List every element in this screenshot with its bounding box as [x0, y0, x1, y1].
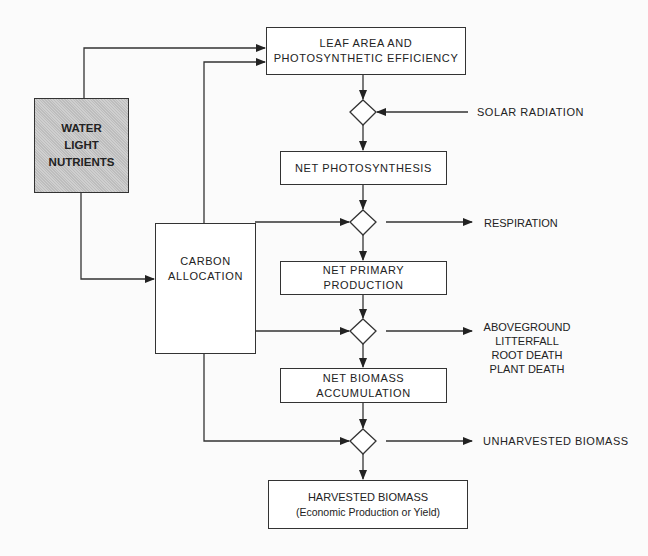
net-biomass-accumulation-box: NET BIOMASS ACCUMULATION	[280, 368, 447, 403]
net-primary-production-box: NET PRIMARY PRODUCTION	[280, 261, 447, 295]
decision-diamond-1	[350, 100, 376, 125]
net-photosynthesis-label: NET PHOTOSYNTHESIS	[295, 161, 432, 176]
harvested-biomass-box: HARVESTED BIOMASS (Economic Production o…	[268, 480, 468, 529]
losses-label: ABOVEGROUND LITTERFALL ROOT DEATH PLANT …	[482, 320, 572, 376]
harvested-line-2: (Economic Production or Yield)	[296, 505, 440, 520]
decision-diamond-2	[350, 210, 376, 235]
respiration-label: RESPIRATION	[484, 216, 558, 230]
loss-root-death: ROOT DEATH	[482, 348, 572, 362]
leaf-area-box: LEAF AREA AND PHOTOSYNTHETIC EFFICIENCY	[266, 27, 466, 75]
carbon-allocation-box: CARBON ALLOCATION	[155, 223, 256, 354]
npp-line-2: PRODUCTION	[324, 278, 404, 293]
carbon-allocation-line-2: ALLOCATION	[168, 269, 243, 284]
unharvested-biomass-label: UNHARVESTED BIOMASS	[483, 434, 629, 448]
harvested-line-1: HARVESTED BIOMASS	[308, 490, 428, 505]
carbon-allocation-line-1: CARBON	[180, 254, 231, 269]
inputs-box: WATER LIGHT NUTRIENTS	[34, 98, 129, 193]
nba-line-2: ACCUMULATION	[316, 386, 410, 401]
input-water: WATER	[61, 120, 102, 137]
solar-radiation-label: SOLAR RADIATION	[477, 105, 584, 119]
loss-litterfall: LITTERFALL	[482, 334, 572, 348]
leaf-area-line-2: PHOTOSYNTHETIC EFFICIENCY	[274, 51, 459, 66]
loss-aboveground: ABOVEGROUND	[482, 320, 572, 334]
decision-diamond-4	[350, 429, 376, 454]
loss-plant-death: PLANT DEATH	[482, 362, 572, 376]
input-light: LIGHT	[64, 137, 99, 154]
leaf-area-line-1: LEAF AREA AND	[320, 36, 413, 51]
input-nutrients: NUTRIENTS	[49, 154, 115, 171]
npp-line-1: NET PRIMARY	[323, 263, 404, 278]
net-photosynthesis-box: NET PHOTOSYNTHESIS	[280, 151, 447, 185]
decision-diamond-3	[350, 319, 376, 344]
nba-line-1: NET BIOMASS	[323, 371, 405, 386]
